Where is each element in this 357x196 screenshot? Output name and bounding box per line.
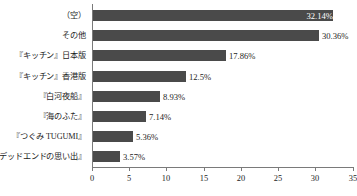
x-axis-tick-label: 35	[349, 174, 357, 184]
x-axis-tick	[241, 167, 242, 171]
bar[interactable]	[93, 50, 226, 61]
x-axis-tick	[92, 167, 93, 171]
plot-area: 32.14% 30.36% 17.86% 12.5% 8.93% 7.14% 5…	[92, 4, 353, 167]
category-axis: （空） その他 『キッチン』日本版 『キッチン』香港版 『白河夜船』 『海のふた…	[0, 0, 89, 167]
x-axis-tick	[129, 167, 130, 171]
bar-value-label: 7.14%	[149, 112, 171, 121]
category-label: 『つぐみ TUGUMI』	[12, 132, 86, 141]
x-axis-tick-label: 30	[311, 174, 319, 184]
y-axis-line	[92, 4, 93, 167]
x-axis-tick-label: 25	[274, 174, 282, 184]
x-axis-tick-label: 0	[90, 174, 94, 184]
bar[interactable]	[93, 131, 133, 142]
bar-value-label: 32.14%	[93, 11, 333, 20]
category-label: 『白河夜船』	[39, 92, 86, 101]
x-axis-tick-label: 10	[162, 174, 170, 184]
x-axis-tick-label: 5	[127, 174, 131, 184]
category-label: 『海のふた』	[39, 112, 86, 121]
x-axis-tick	[278, 167, 279, 171]
bar[interactable]	[93, 111, 146, 122]
x-axis-tick	[315, 167, 316, 171]
category-label: 『キッチン』香港版	[15, 72, 86, 81]
bar[interactable]	[93, 71, 186, 82]
bar-value-label: 30.36%	[322, 31, 349, 40]
bar-value-label: 8.93%	[163, 92, 185, 101]
category-label: 『キッチン』日本版	[15, 51, 86, 60]
x-axis-tick	[353, 167, 354, 171]
category-label: （空）	[62, 11, 86, 20]
x-axis-line	[92, 167, 353, 168]
x-axis-tick	[166, 167, 167, 171]
category-label: その他	[62, 31, 86, 40]
x-axis-tick-label: 15	[200, 174, 208, 184]
bar-value-label: 17.86%	[229, 51, 256, 60]
bar[interactable]	[93, 91, 160, 102]
bar[interactable]	[93, 30, 319, 41]
x-axis-tick-label: 20	[237, 174, 245, 184]
category-label: 『デッドエンドの思い出』	[0, 152, 86, 161]
x-axis-tick	[204, 167, 205, 171]
bar[interactable]	[93, 151, 120, 162]
bar-value-label: 5.36%	[136, 132, 158, 141]
bar-value-label: 12.5%	[189, 72, 211, 81]
bar-value-label: 3.57%	[123, 152, 145, 161]
